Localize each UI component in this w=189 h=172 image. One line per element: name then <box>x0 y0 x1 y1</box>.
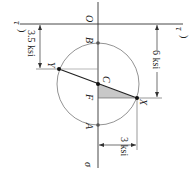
dim-label-6: 6 ksi <box>151 50 162 69</box>
diagram-svg: 6 ksi 3.5 ksi 3 ksi O B C F A Y X σ τ τ … <box>0 0 189 172</box>
label-sigma: σ <box>83 162 94 168</box>
arrow-icon <box>38 25 42 30</box>
arrow-icon <box>155 92 159 97</box>
label-c: C <box>101 76 112 83</box>
label-y: Y <box>46 62 57 69</box>
arrow-icon <box>38 63 42 68</box>
label-tau-right: τ <box>174 27 185 31</box>
label-f: F <box>84 93 95 101</box>
dim-label-3-5: 3.5 ksi <box>26 30 37 57</box>
arrow-icon <box>99 143 104 147</box>
point-y <box>57 67 61 71</box>
mohr-circle-diagram: 6 ksi 3.5 ksi 3 ksi O B C F A Y X σ τ τ … <box>0 0 189 172</box>
dim-label-3: 3 ksi <box>119 137 130 156</box>
arrow-icon <box>131 143 136 147</box>
label-origin: O <box>84 15 95 22</box>
arrow-icon <box>155 25 159 30</box>
tau-paren-left: ) <box>16 29 28 32</box>
point-c <box>96 82 100 86</box>
label-a: A <box>84 122 95 130</box>
label-tau-left: τ <box>12 21 23 25</box>
label-b: B <box>84 37 95 43</box>
tau-paren-right: ) <box>178 35 189 38</box>
point-b <box>96 41 100 45</box>
point-a <box>96 123 100 127</box>
label-x: X <box>138 98 149 106</box>
